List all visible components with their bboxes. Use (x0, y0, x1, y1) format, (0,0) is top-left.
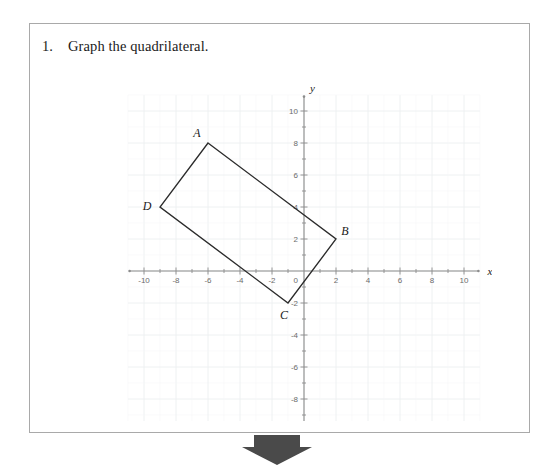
down-arrow-container (0, 433, 554, 467)
y-tick-label: -6 (291, 363, 299, 372)
x-tick-label: 6 (398, 276, 403, 285)
y-axis-label: y (309, 82, 315, 94)
down-arrow-icon (0, 433, 554, 467)
vertex-label-b: B (341, 224, 349, 238)
problem-container: 1. Graph the quadrilateral. -10-8-6-4-20… (29, 23, 530, 433)
y-tick-label: -2 (291, 299, 299, 308)
vertex-labels: ABCD (142, 126, 350, 322)
x-tick-label: -4 (236, 276, 244, 285)
vertex-label-d: D (142, 199, 152, 213)
problem-number: 1. (42, 38, 68, 55)
y-tick-label: 10 (289, 107, 298, 116)
x-tick-label: -8 (172, 276, 180, 285)
axes (128, 95, 479, 421)
y-tick-label: -8 (291, 395, 299, 404)
x-tick-label: 10 (460, 276, 469, 285)
coordinate-graph: -10-8-6-4-20246810108642-2-4-6-8-10 ABCD… (92, 61, 492, 421)
problem-prompt: Graph the quadrilateral. (68, 38, 209, 55)
y-tick-label: 8 (294, 139, 299, 148)
y-tick-label: -4 (291, 331, 299, 340)
x-tick-label: 2 (334, 276, 339, 285)
x-tick-label: -2 (268, 276, 276, 285)
x-axis-label: x (486, 265, 492, 277)
x-tick-label: -10 (138, 276, 150, 285)
y-tick-label: 2 (294, 235, 299, 244)
vertex-label-c: C (280, 308, 289, 322)
x-tick-label: 8 (430, 276, 435, 285)
vertex-label-a: A (192, 126, 201, 140)
x-tick-label: 4 (366, 276, 371, 285)
graph-svg: -10-8-6-4-20246810108642-2-4-6-8-10 ABCD… (92, 61, 492, 421)
y-tick-label: 6 (294, 171, 299, 180)
x-tick-label: 0 (294, 276, 299, 285)
x-tick-label: -6 (204, 276, 212, 285)
page-root: 1. Graph the quadrilateral. -10-8-6-4-20… (0, 0, 554, 467)
problem-heading: 1. Graph the quadrilateral. (42, 38, 209, 55)
